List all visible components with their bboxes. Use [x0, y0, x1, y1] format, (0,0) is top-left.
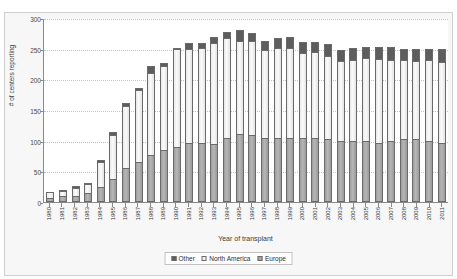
bar-group[interactable]	[297, 19, 310, 202]
stacked-bar[interactable]	[198, 43, 206, 202]
bar-segment-north-america[interactable]	[425, 60, 433, 140]
bar-segment-europe[interactable]	[286, 138, 294, 202]
bar-segment-north-america[interactable]	[375, 59, 383, 142]
bar-segment-north-america[interactable]	[261, 50, 269, 138]
stacked-bar[interactable]	[261, 41, 269, 202]
bar-segment-other[interactable]	[387, 47, 395, 60]
bar-segment-north-america[interactable]	[311, 52, 319, 137]
bar-group[interactable]	[398, 19, 411, 202]
bar-segment-north-america[interactable]	[210, 43, 218, 144]
stacked-bar[interactable]	[59, 190, 67, 202]
bar-segment-north-america[interactable]	[286, 48, 294, 138]
bar-segment-north-america[interactable]	[109, 135, 117, 179]
bar-segment-europe[interactable]	[72, 196, 80, 202]
bar-group[interactable]	[221, 19, 234, 202]
bar-group[interactable]	[246, 19, 259, 202]
bar-group[interactable]	[385, 19, 398, 202]
bar-group[interactable]	[107, 19, 120, 202]
bar-segment-other[interactable]	[311, 42, 319, 52]
bar-group[interactable]	[158, 19, 171, 202]
stacked-bar[interactable]	[160, 63, 168, 202]
stacked-bar[interactable]	[311, 42, 319, 202]
bar-segment-europe[interactable]	[236, 134, 244, 202]
bar-segment-other[interactable]	[400, 49, 408, 60]
bar-segment-europe[interactable]	[135, 162, 143, 202]
bar-group[interactable]	[132, 19, 145, 202]
bar-group[interactable]	[57, 19, 70, 202]
bar-segment-north-america[interactable]	[160, 66, 168, 149]
bar-segment-europe[interactable]	[198, 143, 206, 202]
bar-segment-europe[interactable]	[375, 143, 383, 202]
bar-segment-europe[interactable]	[274, 138, 282, 202]
bar-segment-north-america[interactable]	[147, 73, 155, 155]
bar-group[interactable]	[360, 19, 373, 202]
bar-segment-other[interactable]	[349, 48, 357, 60]
stacked-bar[interactable]	[236, 30, 244, 202]
bar-segment-north-america[interactable]	[299, 53, 307, 138]
stacked-bar[interactable]	[425, 49, 433, 202]
bar-group[interactable]	[233, 19, 246, 202]
bar-group[interactable]	[347, 19, 360, 202]
bar-segment-north-america[interactable]	[400, 60, 408, 140]
bar-segment-europe[interactable]	[147, 155, 155, 202]
bar-segment-europe[interactable]	[84, 193, 92, 202]
bar-segment-europe[interactable]	[122, 168, 130, 202]
bar-segment-north-america[interactable]	[412, 61, 420, 140]
stacked-bar[interactable]	[46, 192, 54, 202]
bar-segment-europe[interactable]	[438, 143, 446, 202]
stacked-bar[interactable]	[400, 49, 408, 202]
bar-group[interactable]	[95, 19, 108, 202]
bar-group[interactable]	[309, 19, 322, 202]
bar-segment-europe[interactable]	[185, 143, 193, 202]
bar-group[interactable]	[145, 19, 158, 202]
bar-segment-north-america[interactable]	[362, 58, 370, 141]
bar-segment-other[interactable]	[299, 42, 307, 53]
bar-group[interactable]	[82, 19, 95, 202]
stacked-bar[interactable]	[286, 37, 294, 202]
stacked-bar[interactable]	[173, 48, 181, 202]
stacked-bar[interactable]	[324, 44, 332, 202]
bar-segment-europe[interactable]	[97, 187, 105, 202]
bar-segment-other[interactable]	[425, 49, 433, 61]
bar-group[interactable]	[259, 19, 272, 202]
legend-item[interactable]: Europe	[257, 255, 285, 262]
bar-segment-europe[interactable]	[59, 196, 67, 202]
bar-segment-europe[interactable]	[160, 150, 168, 202]
bar-segment-north-america[interactable]	[236, 41, 244, 134]
stacked-bar[interactable]	[97, 160, 105, 202]
stacked-bar[interactable]	[438, 49, 446, 202]
stacked-bar[interactable]	[299, 42, 307, 202]
bar-group[interactable]	[170, 19, 183, 202]
bar-group[interactable]	[183, 19, 196, 202]
bar-segment-north-america[interactable]	[135, 90, 143, 162]
bar-segment-other[interactable]	[274, 38, 282, 48]
bar-segment-europe[interactable]	[261, 138, 269, 202]
stacked-bar[interactable]	[210, 37, 218, 202]
bar-segment-north-america[interactable]	[223, 38, 231, 138]
bar-segment-north-america[interactable]	[274, 48, 282, 138]
legend-item[interactable]: Other	[171, 255, 195, 262]
bar-segment-europe[interactable]	[46, 198, 54, 202]
stacked-bar[interactable]	[122, 103, 130, 202]
bar-segment-north-america[interactable]	[122, 106, 130, 167]
bar-group[interactable]	[372, 19, 385, 202]
bar-segment-north-america[interactable]	[173, 49, 181, 147]
bar-segment-europe[interactable]	[223, 138, 231, 202]
bar-segment-north-america[interactable]	[349, 60, 357, 141]
bar-segment-north-america[interactable]	[337, 61, 345, 141]
stacked-bar[interactable]	[362, 47, 370, 202]
legend-item[interactable]: North America	[202, 255, 251, 262]
bar-group[interactable]	[435, 19, 448, 202]
bar-segment-europe[interactable]	[311, 138, 319, 202]
bar-segment-north-america[interactable]	[248, 41, 256, 134]
bar-segment-other[interactable]	[362, 47, 370, 58]
bar-group[interactable]	[284, 19, 297, 202]
bar-segment-north-america[interactable]	[84, 184, 92, 193]
bar-segment-europe[interactable]	[210, 144, 218, 202]
bar-segment-other[interactable]	[248, 33, 256, 41]
bar-segment-europe[interactable]	[425, 141, 433, 202]
bar-segment-europe[interactable]	[173, 147, 181, 202]
stacked-bar[interactable]	[109, 132, 117, 202]
bar-group[interactable]	[271, 19, 284, 202]
bar-segment-europe[interactable]	[400, 139, 408, 202]
